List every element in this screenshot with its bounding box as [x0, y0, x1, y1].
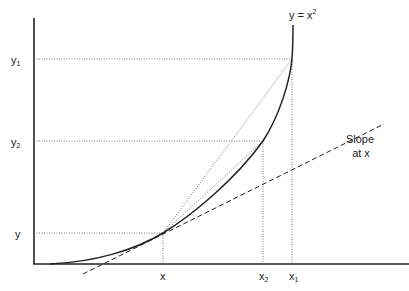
tangent-line: [83, 124, 384, 274]
curve-label: y = x2: [289, 8, 317, 21]
label-x1: x1: [289, 270, 299, 283]
curve-y-equals-x-squared: [50, 25, 293, 264]
label-y2: y2: [11, 136, 21, 149]
tangent-label-line1: Slope: [346, 133, 374, 145]
diagram-canvas: y = x2 y1 y2 y x x2 x1 Slope at x: [0, 0, 409, 291]
label-y1: y1: [11, 54, 21, 67]
secant-x-x1: [163, 59, 292, 233]
label-y: y: [15, 228, 21, 240]
secant-x-x2: [163, 141, 263, 233]
tangent-label-line2: at x: [352, 147, 370, 159]
label-x2: x2: [259, 270, 269, 283]
label-x: x: [160, 270, 166, 282]
